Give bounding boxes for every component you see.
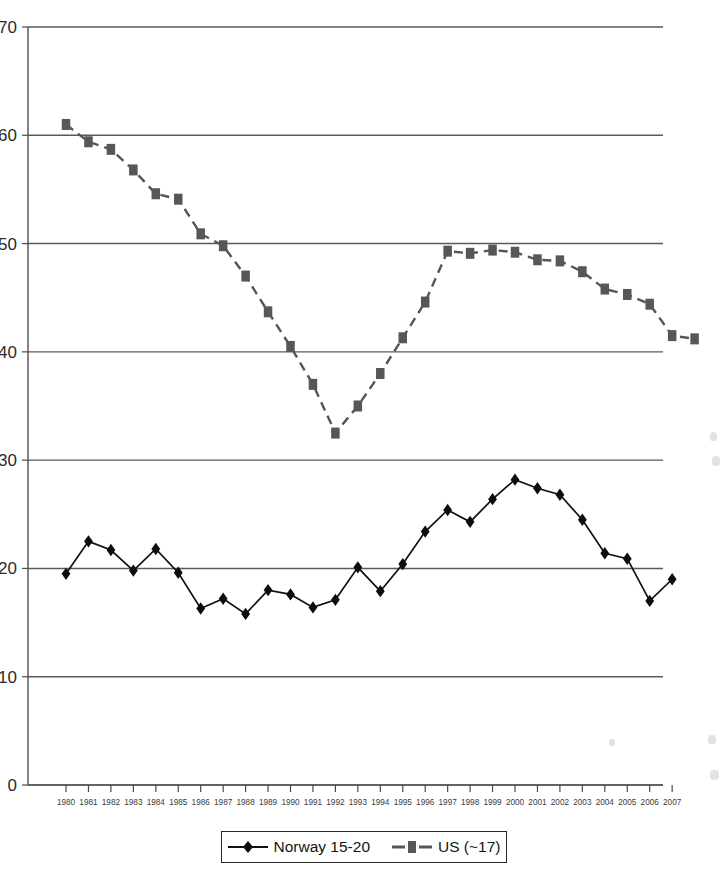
- legend-marker-us: [392, 840, 432, 854]
- x-tick-label-1996: 1996: [416, 798, 435, 807]
- data-point: [533, 482, 542, 494]
- gridlines-group: [28, 27, 663, 785]
- scan-artifact: [710, 770, 719, 780]
- y-tick-label-0: 0: [8, 776, 17, 795]
- y-tick-labels-group: 706050403020100: [0, 18, 28, 795]
- x-axis-group: [28, 785, 672, 792]
- y-tick-label-70: 70: [0, 18, 17, 37]
- data-point: [309, 601, 318, 613]
- x-tick-label-2007: 2007: [663, 798, 682, 807]
- data-point: [376, 368, 385, 379]
- x-tick-label-1988: 1988: [236, 798, 255, 807]
- x-tick-label-1991: 1991: [304, 798, 323, 807]
- y-tick-label-30: 30: [0, 451, 17, 470]
- x-tick-label-2005: 2005: [618, 798, 637, 807]
- chart-legend: Norway 15-20 US (~17): [221, 831, 507, 863]
- data-point: [219, 593, 228, 605]
- data-point: [331, 428, 340, 439]
- square-icon: [408, 841, 416, 853]
- legend-entry-norway: Norway 15-20: [228, 838, 371, 856]
- data-point: [645, 299, 654, 310]
- data-point: [668, 573, 677, 585]
- x-tick-label-1997: 1997: [439, 798, 458, 807]
- data-point: [399, 332, 408, 343]
- data-point: [466, 516, 475, 528]
- data-point: [129, 164, 138, 175]
- data-point: [511, 247, 520, 258]
- x-tick-label-1980: 1980: [57, 798, 76, 807]
- x-tick-label-1989: 1989: [259, 798, 278, 807]
- scan-artifact: [708, 735, 716, 744]
- x-tick-label-2002: 2002: [551, 798, 570, 807]
- data-point: [286, 588, 295, 600]
- x-tick-label-2004: 2004: [596, 798, 615, 807]
- chart-container: 706050403020100 198019811982198319841985…: [0, 0, 727, 873]
- data-point: [556, 255, 565, 266]
- x-tick-label-1986: 1986: [192, 798, 211, 807]
- data-point: [623, 289, 632, 300]
- data-point: [286, 341, 295, 352]
- data-point: [354, 401, 363, 412]
- legend-entry-us: US (~17): [392, 838, 500, 856]
- x-tick-labels-group: 1980198119821983198419851986198719881989…: [57, 798, 682, 807]
- x-tick-label-1984: 1984: [147, 798, 166, 807]
- data-point: [466, 248, 475, 259]
- data-point: [107, 144, 116, 155]
- data-point: [421, 297, 430, 308]
- legend-label-norway: Norway 15-20: [274, 838, 371, 856]
- data-point: [264, 306, 273, 317]
- x-tick-label-1995: 1995: [394, 798, 413, 807]
- data-point: [443, 504, 452, 516]
- y-tick-label-10: 10: [0, 668, 17, 687]
- x-tick-label-1987: 1987: [214, 798, 233, 807]
- scan-artifact: [712, 456, 720, 466]
- data-point: [601, 284, 610, 295]
- x-tick-label-2001: 2001: [528, 798, 547, 807]
- data-point: [241, 271, 250, 282]
- x-tick-label-1998: 1998: [461, 798, 480, 807]
- data-point: [152, 188, 161, 199]
- x-tick-label-2003: 2003: [573, 798, 592, 807]
- data-point: [488, 493, 497, 505]
- data-point: [578, 266, 587, 277]
- y-tick-label-50: 50: [0, 235, 17, 254]
- x-tick-label-1985: 1985: [169, 798, 188, 807]
- x-tick-label-1983: 1983: [124, 798, 143, 807]
- x-tick-label-1994: 1994: [371, 798, 390, 807]
- x-tick-label-1999: 1999: [483, 798, 502, 807]
- data-point: [511, 473, 520, 485]
- data-point: [196, 228, 205, 239]
- series-us: [62, 119, 699, 439]
- x-tick-label-1992: 1992: [326, 798, 345, 807]
- data-point: [533, 254, 542, 265]
- x-tick-label-1993: 1993: [349, 798, 368, 807]
- series-norway: [62, 473, 677, 620]
- x-tick-label-1990: 1990: [281, 798, 300, 807]
- legend-marker-norway: [228, 840, 268, 854]
- data-point: [309, 379, 318, 390]
- data-point: [668, 330, 677, 341]
- y-tick-label-60: 60: [0, 126, 17, 145]
- y-tick-label-40: 40: [0, 343, 17, 362]
- series-line-us: [66, 124, 695, 433]
- x-tick-label-2000: 2000: [506, 798, 525, 807]
- data-point: [443, 246, 452, 257]
- data-point: [84, 136, 93, 147]
- data-point: [219, 240, 228, 251]
- scan-artifact: [710, 432, 717, 441]
- data-point: [690, 333, 699, 344]
- data-point: [62, 119, 71, 130]
- data-point: [174, 194, 183, 205]
- data-point: [107, 544, 116, 556]
- x-tick-label-1981: 1981: [79, 798, 98, 807]
- line-chart-plot: 706050403020100 198019811982198319841985…: [0, 0, 727, 873]
- y-tick-label-20: 20: [0, 559, 17, 578]
- data-point: [488, 245, 497, 256]
- legend-label-us: US (~17): [438, 838, 500, 856]
- x-tick-label-2006: 2006: [641, 798, 660, 807]
- x-tick-label-1982: 1982: [102, 798, 121, 807]
- data-point: [129, 564, 138, 576]
- scan-artifact: [609, 739, 615, 746]
- diamond-icon: [243, 841, 253, 853]
